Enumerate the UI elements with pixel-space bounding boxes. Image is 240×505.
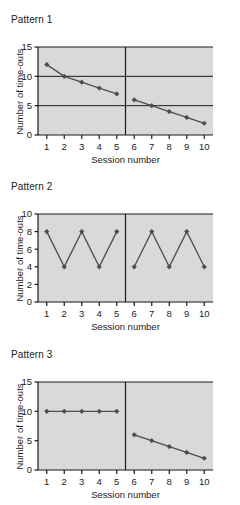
x-tick-label: 1 (44, 308, 49, 319)
y-tick-label: 8 (27, 226, 32, 237)
y-tick-label: 5 (27, 435, 32, 446)
x-tick-label: 3 (79, 308, 84, 319)
x-tick-label: 9 (184, 476, 189, 487)
y-tick-label: 5 (27, 100, 32, 111)
x-tick-label: 3 (79, 476, 84, 487)
x-tick-label: 5 (114, 141, 119, 152)
x-tick-label: 8 (167, 308, 172, 319)
x-tick-label: 10 (199, 476, 210, 487)
x-axis-label: Session number (0, 489, 240, 500)
x-tick-label: 7 (149, 141, 154, 152)
y-tick-label: 4 (27, 261, 32, 272)
pattern-1-panel: Pattern 1 05101512345678910Number of tim… (0, 0, 240, 167)
y-tick-label: 2 (27, 279, 32, 290)
pattern-3-chart: 05101512345678910Number of time-outsSess… (0, 335, 240, 502)
y-tick-label: 0 (27, 129, 32, 140)
x-tick-label: 5 (114, 308, 119, 319)
x-tick-label: 3 (79, 141, 84, 152)
x-tick-label: 9 (184, 141, 189, 152)
x-tick-label: 2 (62, 308, 67, 319)
pattern-3-panel: Pattern 3 05101512345678910Number of tim… (0, 335, 240, 502)
x-tick-label: 10 (199, 141, 210, 152)
pattern-1-chart: 05101512345678910Number of time-outsSess… (0, 0, 240, 167)
y-axis-label: Number of time-outs (14, 41, 25, 141)
x-tick-label: 5 (114, 476, 119, 487)
y-tick-label: 0 (27, 464, 32, 475)
y-tick-label: 6 (27, 244, 32, 255)
x-tick-label: 2 (62, 476, 67, 487)
x-tick-label: 7 (149, 476, 154, 487)
y-axis-label: Number of time-outs (14, 376, 25, 476)
x-tick-label: 4 (97, 141, 102, 152)
x-tick-label: 6 (132, 141, 137, 152)
pattern-2-panel: Pattern 2 024681012345678910Number of ti… (0, 167, 240, 334)
x-tick-label: 2 (62, 141, 67, 152)
y-tick-label: 0 (27, 296, 32, 307)
x-tick-label: 4 (97, 476, 102, 487)
y-axis-label: Number of time-outs (14, 208, 25, 308)
pattern-2-chart: 024681012345678910Number of time-outsSes… (0, 167, 240, 334)
x-tick-label: 4 (97, 308, 102, 319)
x-tick-label: 6 (132, 308, 137, 319)
x-tick-label: 1 (44, 476, 49, 487)
x-tick-label: 9 (184, 308, 189, 319)
x-tick-label: 8 (167, 476, 172, 487)
x-tick-label: 10 (199, 308, 210, 319)
x-tick-label: 8 (167, 141, 172, 152)
x-axis-label: Session number (0, 321, 240, 332)
x-tick-label: 1 (44, 141, 49, 152)
x-tick-label: 6 (132, 476, 137, 487)
x-axis-label: Session number (0, 154, 240, 165)
x-tick-label: 7 (149, 308, 154, 319)
